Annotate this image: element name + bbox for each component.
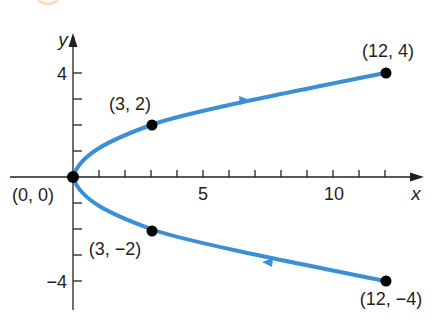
y-axis-label: y: [56, 29, 69, 50]
point-12-neg4: [381, 276, 392, 287]
parametric-curve-graph: 5 10 x 4 −4 y (0, 0) (3, 2) (: [0, 0, 444, 334]
point-label-12-neg4: (12, −4): [360, 289, 423, 309]
y-tick-label-4: 4: [57, 64, 67, 84]
point-label-origin: (0, 0): [12, 185, 54, 205]
x-axis-label: x: [410, 183, 422, 204]
point-label-3-neg2: (3, −2): [89, 239, 142, 259]
direction-arrow-lower-icon: [262, 258, 273, 267]
point-3-2: [147, 120, 158, 131]
y-tick-label-neg4: −4: [46, 272, 67, 292]
point-origin: [67, 171, 79, 183]
y-axis-arrow-icon: [69, 33, 78, 47]
section-marker-fragment: [38, 0, 58, 4]
x-axis-arrow-icon: [410, 173, 424, 182]
x-tick-label-10: 10: [324, 184, 344, 204]
point-label-3-2: (3, 2): [109, 94, 151, 114]
point-12-4: [381, 68, 392, 79]
x-tick-label-5: 5: [198, 184, 208, 204]
point-3-neg2: [147, 226, 158, 237]
point-label-12-4: (12, 4): [362, 41, 414, 61]
x-axis-ticks: [99, 170, 385, 177]
